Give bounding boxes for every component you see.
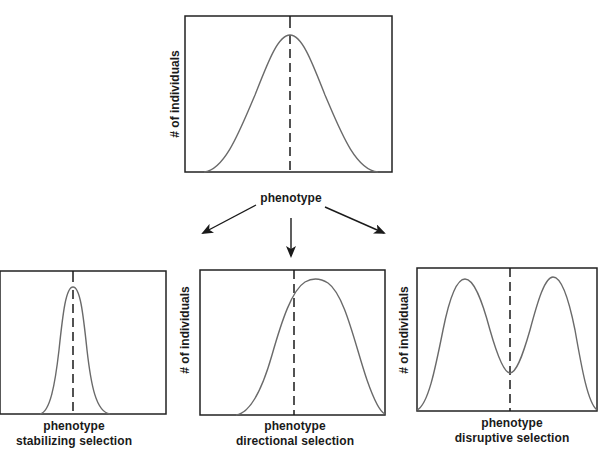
disruptive-caption: disruptive selection bbox=[455, 431, 570, 445]
directional-selection-plot bbox=[200, 270, 385, 415]
plot-frame bbox=[185, 16, 392, 172]
disruptive-x-axis-label: phenotype bbox=[481, 416, 543, 430]
narrow-bell-curve bbox=[40, 287, 110, 414]
shifted-bell-curve bbox=[236, 279, 385, 415]
directional-y-axis-label: # of individuals bbox=[178, 286, 192, 373]
bimodal-curve bbox=[417, 277, 597, 410]
top-x-axis-label: phenotype bbox=[260, 191, 322, 205]
selection-arrows bbox=[203, 205, 384, 256]
top-y-axis-label: # of individuals bbox=[168, 50, 182, 137]
natural-selection-diagram: # of individuals phenotype # of individu… bbox=[0, 0, 606, 463]
original-distribution-plot bbox=[185, 16, 392, 172]
arrow-right bbox=[325, 207, 384, 233]
plot-frame bbox=[417, 268, 597, 411]
plot-frame bbox=[0, 271, 166, 414]
stabilizing-selection-plot bbox=[0, 271, 166, 414]
diagram-graphics bbox=[0, 0, 606, 463]
directional-x-axis-label: phenotype bbox=[264, 419, 326, 433]
disruptive-selection-plot bbox=[417, 268, 597, 411]
plot-frame bbox=[200, 270, 385, 415]
directional-caption: directional selection bbox=[236, 434, 354, 448]
disruptive-y-axis-label: # of individuals bbox=[397, 286, 411, 373]
stabilizing-x-axis-label: phenotype bbox=[43, 419, 105, 433]
bell-curve bbox=[204, 35, 378, 172]
stabilizing-caption: stabilizing selection bbox=[16, 434, 132, 448]
arrow-left bbox=[203, 205, 256, 233]
